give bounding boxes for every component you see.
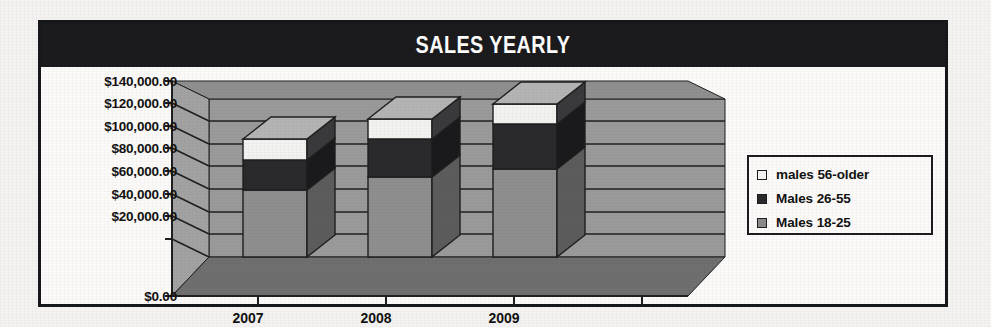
- chart-legend: males 56-older Males 26-55 Males 18-25: [747, 155, 933, 235]
- chart-frame: SALES YEARLY: [38, 20, 948, 307]
- legend-label-males-26-55: Males 26-55: [776, 191, 851, 206]
- legend-item-males-26-55[interactable]: Males 26-55: [757, 187, 923, 210]
- legend-item-males-18-25[interactable]: Males 18-25: [757, 211, 923, 234]
- legend-label-males-18-25: Males 18-25: [776, 215, 851, 230]
- legend-item-males-56-older[interactable]: males 56-older: [757, 163, 923, 186]
- legend-swatch-icon-males-18-25: [757, 218, 767, 228]
- legend-swatch-icon-males-26-55: [757, 194, 767, 204]
- page-title: SALES YEARLY: [416, 32, 571, 59]
- legend-label-males-56-older: males 56-older: [776, 167, 869, 182]
- legend-swatch-icon-males-56-older: [757, 170, 767, 180]
- plot-area: $140,000.00 $120,000.00 $100,000.00 $80,…: [41, 67, 945, 307]
- x-tick-label-2007: 2007: [232, 310, 263, 326]
- chart-screenshot: SALES YEARLY: [0, 0, 991, 327]
- x-tick-label-2009: 2009: [488, 310, 519, 326]
- chart-title-banner: SALES YEARLY: [41, 23, 945, 67]
- x-tick-label-2008: 2008: [360, 310, 391, 326]
